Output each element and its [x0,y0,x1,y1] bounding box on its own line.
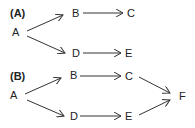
node-e: E [125,47,132,59]
node-b: B [70,69,77,81]
panel-a: (A) A B C D E [10,7,135,59]
node-a: A [10,89,18,101]
panel-b-label: (B) [10,70,26,82]
edge-c-f [139,77,170,93]
edge-a-d [27,36,65,53]
node-b: B [72,7,79,19]
node-d: D [70,110,78,122]
node-e: E [125,110,132,122]
panel-a-label: (A) [10,7,26,19]
panel-b: (B) A B C D E F [10,69,186,122]
node-c: C [125,70,133,82]
node-a: A [12,26,20,38]
edge-a-b [25,78,61,94]
node-c: C [127,7,135,19]
node-f: F [179,90,186,102]
flow-diagram: (A) A B C D E (B) A B C D E F [0,0,195,128]
node-d: D [72,47,80,59]
edge-e-f [139,100,170,115]
edge-a-b [27,15,63,31]
edge-a-d [27,100,64,116]
